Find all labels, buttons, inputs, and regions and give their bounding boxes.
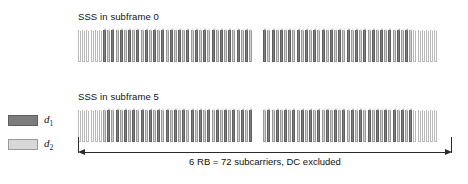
comb-left-half: [78, 110, 253, 142]
subcarrier-tooth: [95, 110, 98, 142]
subcarrier-tooth: [430, 30, 433, 62]
subcarrier-tooth: [263, 30, 266, 62]
subcarrier-tooth: [124, 110, 127, 142]
subcarrier-tooth: [309, 30, 312, 62]
subcarrier-tooth: [237, 30, 240, 62]
subcarrier-tooth: [368, 30, 371, 62]
subcarrier-tooth: [174, 30, 177, 62]
subcarrier-tooth: [141, 30, 144, 62]
subcarrier-tooth: [405, 110, 408, 142]
subcarrier-tooth: [237, 110, 240, 142]
d1-label: d1: [44, 113, 53, 128]
subcarrier-tooth: [178, 30, 181, 62]
subcarrier-tooth: [161, 110, 164, 142]
subcarrier-tooth: [388, 110, 391, 142]
subcarrier-tooth: [107, 110, 110, 142]
subcarrier-tooth: [434, 110, 437, 142]
subcarrier-tooth: [111, 30, 114, 62]
dimension-caption: 6 RB = 72 subcarriers, DC excluded: [78, 156, 452, 167]
subcarrier-tooth: [401, 30, 404, 62]
subcarrier-tooth: [220, 110, 223, 142]
subcarrier-tooth: [413, 110, 416, 142]
subcarrier-tooth: [376, 30, 379, 62]
subcarrier-tooth: [284, 30, 287, 62]
subcarrier-tooth: [280, 110, 283, 142]
subcarrier-tooth: [182, 110, 185, 142]
dc-gap: [253, 30, 263, 62]
subcarrier-tooth: [422, 30, 425, 62]
subcarrier-tooth: [363, 110, 366, 142]
subcarrier-tooth: [313, 110, 316, 142]
subcarrier-tooth: [272, 30, 275, 62]
subcarrier-tooth: [216, 30, 219, 62]
subcarrier-tooth: [232, 30, 235, 62]
subcarrier-tooth: [322, 30, 325, 62]
subcarrier-tooth: [363, 30, 366, 62]
subcarrier-tooth: [276, 110, 279, 142]
subcarrier-tooth: [228, 110, 231, 142]
subcarrier-tooth: [397, 110, 400, 142]
subcarrier-tooth: [313, 30, 316, 62]
subcarrier-tooth: [128, 110, 131, 142]
subcarrier-tooth: [103, 30, 106, 62]
subcarrier-tooth: [280, 30, 283, 62]
subcarrier-tooth: [267, 110, 270, 142]
subframe-5-label: SSS in subframe 5: [78, 91, 159, 102]
subcarrier-tooth: [145, 30, 148, 62]
subcarrier-tooth: [372, 110, 375, 142]
subcarrier-tooth: [136, 110, 139, 142]
subcarrier-tooth: [91, 110, 94, 142]
subcarrier-tooth: [305, 110, 308, 142]
subcarrier-tooth: [301, 110, 304, 142]
subcarrier-tooth: [272, 110, 275, 142]
subcarrier-tooth: [141, 110, 144, 142]
comb-right-half: [263, 110, 438, 142]
subcarrier-tooth: [434, 30, 437, 62]
subcarrier-tooth: [405, 30, 408, 62]
subcarrier-tooth: [426, 110, 429, 142]
subcarrier-tooth: [207, 110, 210, 142]
subcarrier-tooth: [178, 110, 181, 142]
subcarrier-tooth: [334, 110, 337, 142]
subcarrier-tooth: [99, 30, 102, 62]
subcarrier-tooth: [317, 110, 320, 142]
subcarrier-tooth: [384, 110, 387, 142]
subcarrier-tooth: [157, 110, 160, 142]
subcarrier-tooth: [249, 110, 252, 142]
subcarrier-tooth: [111, 110, 114, 142]
subcarrier-tooth: [116, 110, 119, 142]
subcarrier-tooth: [212, 110, 215, 142]
bandwidth-dimension-arrow: [78, 152, 452, 153]
subcarrier-tooth: [330, 30, 333, 62]
subcarrier-tooth: [334, 30, 337, 62]
subcarrier-tooth: [380, 110, 383, 142]
subcarrier-tooth: [95, 30, 98, 62]
subcarrier-tooth: [199, 30, 202, 62]
subcarrier-tooth: [355, 30, 358, 62]
subcarrier-tooth: [170, 110, 173, 142]
subcarrier-tooth: [359, 110, 362, 142]
legend-item-d1: d1: [8, 113, 53, 128]
subcarrier-tooth: [149, 30, 152, 62]
subcarrier-tooth: [78, 30, 81, 62]
subcarrier-tooth: [124, 30, 127, 62]
subcarrier-tooth: [301, 30, 304, 62]
subcarrier-tooth: [166, 110, 169, 142]
subcarrier-tooth: [99, 110, 102, 142]
subcarrier-tooth: [326, 110, 329, 142]
subcarrier-tooth: [297, 30, 300, 62]
subcarrier-tooth: [430, 110, 433, 142]
d1-swatch: [8, 115, 38, 126]
subcarrier-tooth: [195, 30, 198, 62]
subcarrier-tooth: [326, 30, 329, 62]
comb-subframe-5: [78, 110, 452, 142]
comb-right-half: [263, 30, 438, 62]
subcarrier-tooth: [203, 30, 206, 62]
subcarrier-tooth: [107, 30, 110, 62]
subcarrier-tooth: [418, 30, 421, 62]
subcarrier-tooth: [380, 30, 383, 62]
subcarrier-tooth: [191, 110, 194, 142]
comb-subframe-0: [78, 30, 452, 62]
subcarrier-tooth: [128, 30, 131, 62]
subcarrier-tooth: [195, 110, 198, 142]
